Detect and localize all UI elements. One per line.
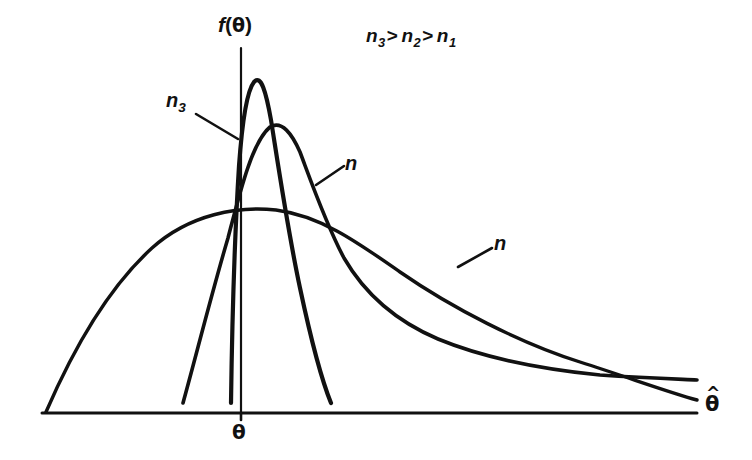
y-axis-label-open-paren: ( — [225, 13, 232, 36]
x-axis-label-theta: θ — [705, 392, 719, 416]
inequality-n1-subscript: 1 — [449, 35, 457, 50]
curve-label-n1-base: n — [494, 232, 506, 254]
inequality-n3: n — [366, 25, 378, 46]
curve-n3 — [231, 80, 331, 403]
plot-svg — [0, 0, 752, 460]
curve-n1 — [46, 209, 697, 412]
inequality-greater-than-1: > — [386, 25, 402, 46]
sample-size-inequality: n3>n2>n1 — [366, 26, 457, 50]
curve-n2 — [183, 125, 697, 403]
y-axis-label-theta: θ — [232, 14, 245, 36]
y-axis-label: f(θ) — [218, 14, 252, 35]
curve-label-n2: n — [345, 153, 357, 178]
inequality-n2: n — [401, 25, 413, 46]
curve-label-n1: n — [494, 233, 506, 258]
curve-label-n3: n3 — [166, 90, 186, 115]
inequality-greater-than-2: > — [421, 25, 437, 46]
curve-label-n3-base: n — [166, 89, 178, 111]
leader-line-n2 — [316, 166, 344, 185]
curve-label-n3-subscript: 3 — [178, 100, 186, 115]
y-axis-label-f: f — [218, 13, 225, 36]
x-axis-label-theta-hat: ^θ — [705, 392, 719, 413]
figure-canvas: f(θ) n3>n2>n1 n3 n n θ ^θ — [0, 0, 752, 460]
x-axis-tick-label-theta: θ — [232, 422, 246, 442]
inequality-n3-subscript: 3 — [378, 35, 386, 50]
leader-line-n1 — [458, 248, 492, 267]
inequality-n1: n — [437, 25, 449, 46]
curve-label-n2-base: n — [345, 152, 357, 174]
y-axis-label-close-paren: ) — [245, 13, 252, 36]
leader-line-n3 — [196, 114, 238, 139]
